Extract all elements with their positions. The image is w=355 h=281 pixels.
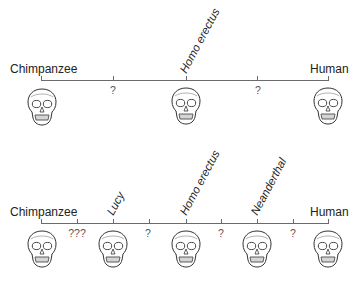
tick [293,219,294,224]
tick [328,219,329,224]
tick [113,219,114,224]
tick [221,219,222,224]
node-label-lucy: Lucy [104,190,126,217]
tick [77,219,78,224]
node-label-neanderthal: Neanderthal [248,156,288,217]
bottom-timeline-panel: Chimpanzee Human Lucy Homo erectus Neand… [0,0,355,281]
tick [41,219,42,224]
tick [257,219,258,224]
neanderthal-skull-icon [240,229,274,269]
gap-unknown: ??? [68,227,86,239]
timeline-axis [41,223,329,224]
end-label-human: Human [310,205,349,219]
gap-unknown: ? [290,227,296,239]
homo-erectus-skull-icon [169,229,203,269]
node-label-homo-erectus: Homo erectus [177,148,221,217]
tick [149,219,150,224]
gap-unknown: ? [145,227,151,239]
chimpanzee-skull-icon [25,229,59,269]
tick [186,219,187,224]
human-skull-icon [311,229,345,269]
start-label-chimpanzee: Chimpanzee [10,205,77,219]
lucy-skull-icon [96,229,130,269]
gap-unknown: ? [218,227,224,239]
